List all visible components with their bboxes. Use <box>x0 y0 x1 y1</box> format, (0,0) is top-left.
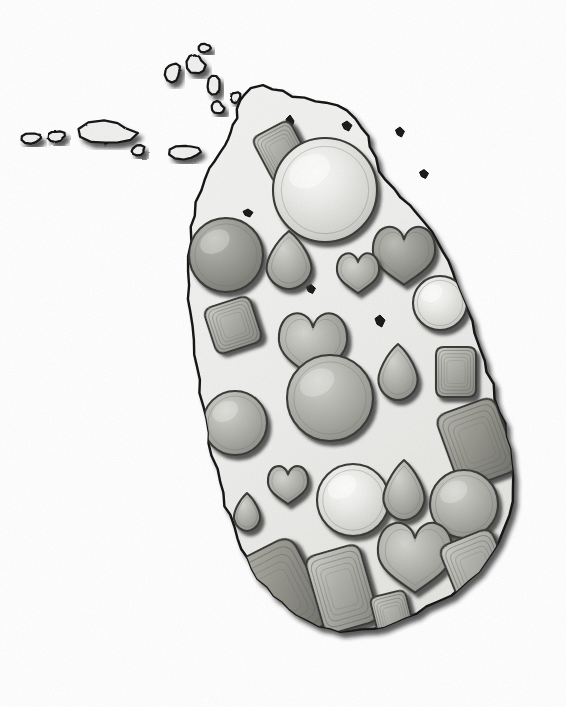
sri-lanka-gem-map <box>0 0 566 707</box>
illustration-canvas: Sri Lanka Gemstone Map <box>0 0 566 707</box>
